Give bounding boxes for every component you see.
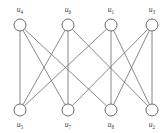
- graph-figure: u4u6u1u3u5u7u8u2: [0, 0, 164, 133]
- graph-node-label-u1: u1: [108, 5, 115, 15]
- graph-node-label-u3: u3: [149, 5, 156, 15]
- graph-node-label-u4: u4: [17, 5, 24, 15]
- graph-node-label-u6: u6: [65, 5, 72, 15]
- label-layer: u4u6u1u3u5u7u8u2: [17, 5, 156, 130]
- graph-node-u1: [105, 19, 117, 31]
- graph-node-u7: [62, 104, 74, 116]
- graph-node-label-u7: u7: [65, 120, 72, 130]
- graph-node-u5: [14, 104, 26, 116]
- node-layer: [14, 19, 158, 116]
- graph-node-u3: [146, 19, 158, 31]
- graph-node-u6: [62, 19, 74, 31]
- edge-layer: [20, 29, 152, 106]
- graph-node-label-u5: u5: [17, 120, 24, 130]
- graph-node-label-u8: u8: [108, 120, 115, 130]
- graph-node-u8: [105, 104, 117, 116]
- graph-node-u2: [146, 104, 158, 116]
- graph-canvas: u4u6u1u3u5u7u8u2: [0, 0, 164, 133]
- graph-node-label-u2: u2: [149, 120, 156, 130]
- graph-node-u4: [14, 19, 26, 31]
